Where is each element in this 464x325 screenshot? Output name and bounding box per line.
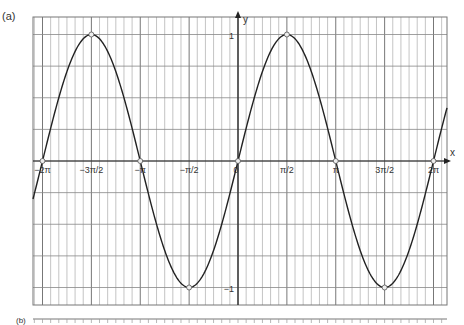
marked-point	[284, 32, 289, 37]
x-tick-label: −3π/2	[79, 165, 103, 175]
marked-point	[236, 159, 241, 164]
marked-point	[333, 159, 338, 164]
next-panel-label: (b)	[16, 316, 26, 325]
x-tick-label: −π	[135, 165, 146, 175]
marked-point	[431, 159, 436, 164]
y-tick-label: −1	[224, 284, 234, 294]
marked-point	[138, 159, 143, 164]
x-tick-label: −π/2	[180, 165, 199, 175]
x-tick-label: π/2	[280, 165, 294, 175]
x-tick-label: 2π	[428, 165, 439, 175]
axes: xy−2π−3π/2−π−π/20π/2π3π/22π1−1	[33, 11, 455, 305]
marked-point	[89, 32, 94, 37]
y-axis-label: y	[243, 14, 248, 25]
marked-point	[187, 285, 192, 290]
marked-point	[40, 159, 45, 164]
panel-label: (a)	[2, 10, 15, 22]
x-axis-label: x	[450, 147, 455, 158]
x-tick-label: 3π/2	[375, 165, 394, 175]
x-tick-label: −2π	[34, 165, 50, 175]
marked-point	[382, 285, 387, 290]
y-tick-label: 1	[229, 31, 234, 41]
